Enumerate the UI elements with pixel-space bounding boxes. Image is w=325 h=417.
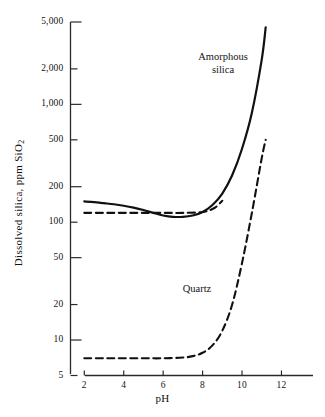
y-axis-tick-label: 100 — [0, 216, 64, 226]
x-axis-tick-label: 8 — [189, 380, 217, 390]
y-axis-ticks — [71, 22, 82, 376]
x-axis-ticks — [84, 371, 281, 376]
series-label-amorphous-line1: Amorphous — [198, 51, 248, 62]
y-axis-title-text: Dissolved silica, ppm SiO — [12, 144, 24, 266]
y-axis-tick-label: 20 — [0, 299, 64, 309]
y-axis-tick-label: 1,000 — [0, 98, 64, 108]
y-axis-tick-label: 2,000 — [0, 63, 64, 73]
y-axis-tick-label: 200 — [0, 181, 64, 191]
y-axis-title: Dissolved silica, ppm SiO2 — [12, 118, 26, 288]
x-axis-title: pH — [0, 392, 325, 404]
y-axis-title-subscript: 2 — [17, 140, 26, 144]
y-axis-tick-label: 50 — [0, 252, 64, 262]
x-axis-tick-label: 10 — [228, 380, 256, 390]
x-axis-tick-label: 4 — [110, 380, 138, 390]
x-axis-tick-label: 6 — [149, 380, 177, 390]
x-axis-tick-label: 12 — [267, 380, 295, 390]
chart-container: 51020501002005001,0002,0005,000 24681012… — [0, 0, 325, 417]
y-axis-tick-label: 500 — [0, 134, 64, 144]
x-axis-tick-label: 2 — [70, 380, 98, 390]
series-label-amorphous-silica: Amorphous silica — [186, 51, 260, 76]
y-axis-tick-label: 10 — [0, 334, 64, 344]
series-label-quartz: Quartz — [172, 283, 222, 296]
y-axis-tick-label: 5,000 — [0, 16, 64, 26]
chart-series-layer — [84, 27, 265, 358]
y-axis-tick-label: 5 — [0, 370, 64, 380]
series-path-1 — [84, 140, 265, 359]
series-label-amorphous-line2: silica — [212, 64, 234, 75]
